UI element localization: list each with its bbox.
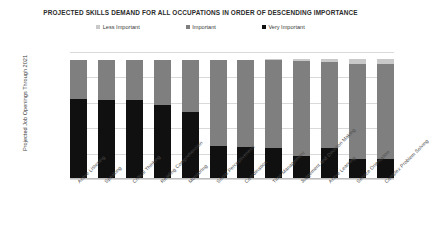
- bar-segment: [70, 99, 87, 179]
- bar-segment: [182, 60, 199, 113]
- bar-segment: [237, 60, 254, 146]
- bar-column[interactable]: [70, 52, 87, 179]
- chart-title: PROJECTED SKILLS DEMAND FOR ALL OCCUPATI…: [0, 9, 401, 16]
- bar-segment: [126, 100, 143, 179]
- x-axis-line: [70, 178, 394, 179]
- chart-legend: Less Important Important Very Important: [0, 24, 401, 30]
- bar-segment: [154, 105, 171, 179]
- legend-swatch-important: [186, 25, 190, 29]
- legend-item-very-important[interactable]: Very Important: [262, 24, 305, 30]
- bar-segment: [377, 64, 394, 158]
- bar-column[interactable]: [126, 52, 143, 179]
- bar-segment: [70, 60, 87, 100]
- bar-segment: [126, 60, 143, 101]
- bar-segment: [265, 60, 282, 147]
- legend-item-less-important[interactable]: Less Important: [96, 24, 140, 30]
- legend-swatch-less-important: [96, 25, 100, 29]
- bar-segment: [349, 64, 366, 160]
- bar-segment: [154, 60, 171, 106]
- bar-segment: [293, 61, 310, 156]
- legend-label-less-important: Less Important: [103, 24, 140, 30]
- bar-segment: [98, 100, 115, 179]
- legend-item-important[interactable]: Important: [186, 24, 216, 30]
- bar-segment: [321, 62, 338, 148]
- bar-column[interactable]: [210, 52, 227, 179]
- y-axis-title: Projected Job Openings Through 2021: [22, 38, 28, 168]
- bar-segment: [98, 60, 115, 100]
- legend-label-very-important: Very Important: [268, 24, 304, 30]
- x-axis-labels: Active ListeningSpeakingCritical Thinkin…: [70, 180, 394, 243]
- bar-segment: [210, 60, 227, 146]
- legend-label-important: Important: [192, 24, 216, 30]
- legend-swatch-very-important: [262, 25, 266, 29]
- bar-column[interactable]: [265, 52, 282, 179]
